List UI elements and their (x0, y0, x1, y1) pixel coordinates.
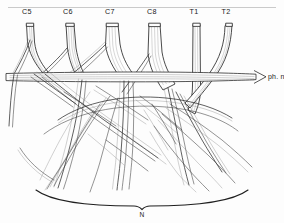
brace-label-n: N (140, 211, 145, 218)
root-label-t1: T1 (190, 7, 199, 16)
root-label-c7: C7 (105, 7, 115, 16)
root-trunk-c8 (122, 23, 175, 94)
fiber-fan-lower-right (150, 104, 252, 192)
fiber-bundle-c5-c6-descending (42, 71, 161, 161)
root-label-t2: T2 (222, 7, 231, 16)
root-trunk-c5 (13, 23, 48, 75)
phrenic-nerve-label: ph. n. (268, 73, 284, 81)
root-label-c5: C5 (22, 7, 32, 16)
fiber-fan-lower-left (40, 92, 118, 192)
bottom-brace (36, 190, 248, 210)
root-trunk-t2 (185, 23, 232, 108)
plexus-drawing: C5 C6 C7 C8 T1 T2 ph. n. N (0, 0, 284, 223)
root-label-c6: C6 (63, 7, 73, 16)
arc-lower-left (18, 148, 54, 182)
root-label-c8: C8 (147, 7, 157, 16)
brachial-plexus-figure: C5 C6 C7 C8 T1 T2 ph. n. N (0, 0, 284, 223)
